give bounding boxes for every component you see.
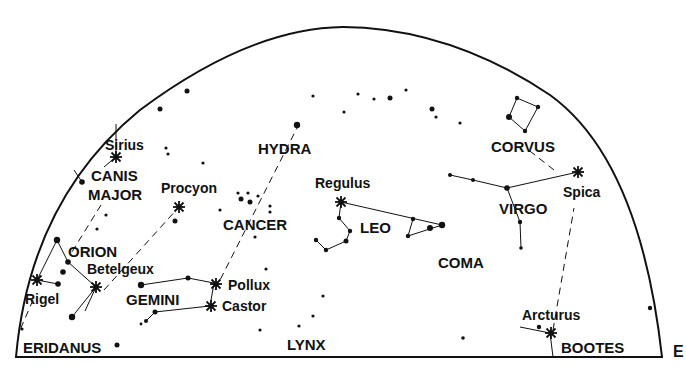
label-rigel: Rigel	[25, 291, 59, 307]
regulus-star-icon	[335, 196, 347, 208]
spica-star-icon	[572, 166, 584, 178]
label-pollux: Pollux	[228, 277, 270, 293]
label-gemini: GEMINI	[126, 291, 179, 308]
label-castor: Castor	[222, 298, 267, 314]
castor-star-icon	[205, 300, 217, 312]
label-lynx: LYNX	[287, 336, 326, 353]
label-spica: Spica	[563, 184, 601, 200]
label-arcturus: Arcturus	[522, 307, 581, 323]
label-procyon: Procyon	[161, 180, 217, 196]
compass-east-label: E	[673, 343, 684, 361]
pollux-star-icon	[210, 278, 222, 290]
label-major: MAJOR	[88, 186, 142, 203]
label-betelgeux: Betelgeux	[87, 261, 154, 277]
betelgeux-star-icon	[90, 281, 102, 293]
label-orion: ORION	[68, 243, 117, 260]
pointer-lines	[20, 128, 574, 330]
label-canis: CANIS	[91, 167, 138, 184]
rigel-star-icon	[31, 274, 43, 286]
label-bootes: BOOTES	[561, 339, 624, 356]
procyon-star-icon	[173, 201, 185, 213]
label-regulus: Regulus	[315, 175, 370, 191]
label-cancer: CANCER	[223, 216, 287, 233]
label-sirius: Sirius	[105, 137, 144, 153]
star-map: Sirius Procyon Betelgeux Rigel Pollux Ca…	[0, 0, 686, 375]
arcturus-star-icon	[545, 327, 557, 339]
label-coma: COMA	[438, 254, 484, 271]
label-hydra: HYDRA	[258, 140, 312, 157]
label-corvus: CORVUS	[491, 138, 555, 155]
label-leo: LEO	[360, 219, 391, 236]
label-virgo: VIRGO	[499, 200, 548, 217]
label-eridanus: ERIDANUS	[23, 339, 101, 356]
